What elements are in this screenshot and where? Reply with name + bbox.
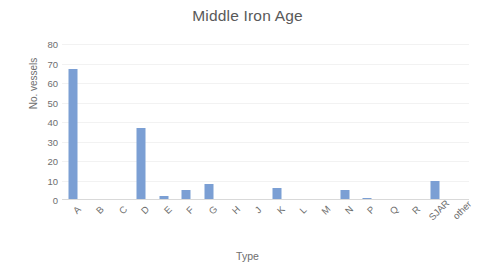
x-label-slot: M (311, 202, 334, 246)
x-axis-tick-label-D: D (139, 204, 152, 217)
x-label-slot: E (152, 202, 175, 246)
bar-slot (62, 44, 85, 200)
x-axis-tick-label-M: M (319, 203, 332, 216)
bar-slot (424, 44, 447, 200)
x-label-slot: R (401, 202, 424, 246)
y-axis-tick-label: 50 (30, 97, 58, 108)
x-axis-tick-label-N: N (342, 204, 355, 217)
x-label-slot: Q (379, 202, 402, 246)
bar-slot (130, 44, 153, 200)
bar-slot (220, 44, 243, 200)
x-axis-tick-label-other: other (450, 198, 473, 221)
y-axis-tick-label: 0 (30, 195, 58, 206)
x-axis-line (62, 199, 469, 200)
x-axis-tick-label-P: P (365, 204, 377, 216)
bar-chart: Middle Iron Age No. vessels 807060504030… (0, 0, 495, 275)
x-label-slot: other (446, 202, 469, 246)
x-axis-tick-label-Q: Q (387, 203, 400, 216)
bar-slot (401, 44, 424, 200)
bar-slot (311, 44, 334, 200)
x-label-slot: F (175, 202, 198, 246)
x-axis-tick-label-J: J (252, 204, 263, 215)
x-label-slot: K (266, 202, 289, 246)
x-axis-tick-label-L: L (298, 204, 310, 216)
x-label-slot: J (243, 202, 266, 246)
x-axis-tick-label-R: R (410, 204, 423, 217)
y-axis-tick-label: 10 (30, 175, 58, 186)
bar-A[interactable] (69, 69, 78, 200)
x-label-slot: P (356, 202, 379, 246)
x-label-slot: N (333, 202, 356, 246)
bar-slot (152, 44, 175, 200)
x-axis-tick-label-B: B (94, 204, 106, 216)
x-label-slot: D (130, 202, 153, 246)
x-label-slot: G (198, 202, 221, 246)
bar-slot (85, 44, 108, 200)
y-axis-tick-label: 70 (30, 58, 58, 69)
x-label-slot: H (220, 202, 243, 246)
bar-slot (266, 44, 289, 200)
x-axis-tick-label-H: H (229, 204, 242, 217)
bar-slot (288, 44, 311, 200)
x-axis-tick-label-A: A (71, 204, 83, 216)
y-axis-tick-labels: 80706050403020100 (30, 44, 58, 200)
bar-slot (175, 44, 198, 200)
plot-area (62, 44, 469, 200)
x-axis-tick-label-F: F (184, 204, 196, 216)
y-axis-tick-label: 40 (30, 117, 58, 128)
bar-slot (198, 44, 221, 200)
x-label-slot: C (107, 202, 130, 246)
bar-slot (446, 44, 469, 200)
y-axis-tick-label: 80 (30, 39, 58, 50)
x-axis-tick-label-C: C (116, 204, 129, 217)
bar-slot (107, 44, 130, 200)
x-axis-title: Type (0, 250, 495, 262)
y-axis-tick-label: 60 (30, 78, 58, 89)
bar-G[interactable] (204, 184, 213, 200)
chart-title: Middle Iron Age (0, 7, 495, 25)
bar-slot (379, 44, 402, 200)
x-label-slot: B (85, 202, 108, 246)
x-label-slot: A (62, 202, 85, 246)
x-label-slot: SJAR (424, 202, 447, 246)
bar-D[interactable] (137, 128, 146, 200)
bar-slot (333, 44, 356, 200)
x-axis-tick-labels: ABCDEFGHJKLMNPQRSJARother (62, 202, 469, 246)
x-axis-tick-label-K: K (275, 204, 287, 216)
bar-slot (243, 44, 266, 200)
y-axis-tick-label: 30 (30, 136, 58, 147)
bar-SJAR[interactable] (431, 181, 440, 201)
x-axis-tick-label-E: E (161, 204, 173, 216)
y-axis-tick-label: 20 (30, 156, 58, 167)
x-axis-tick-label-G: G (206, 203, 219, 216)
x-label-slot: L (288, 202, 311, 246)
bar-slot (356, 44, 379, 200)
